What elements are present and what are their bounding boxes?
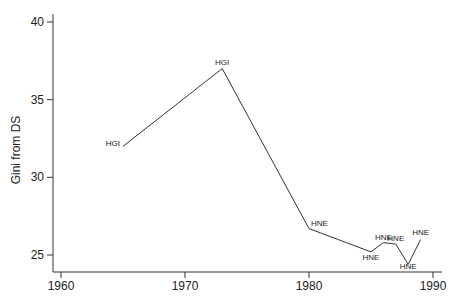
point-label: HNE: [412, 228, 429, 237]
data-series: HGIHGIHNEHNEHNEHNEHNEHNE: [106, 58, 429, 272]
y-tick-label: 30: [31, 170, 45, 184]
chart-canvas: 25303540 1960197019801990 Gini from DS H…: [0, 0, 462, 305]
point-label: HNE: [363, 253, 380, 262]
point-label: HGI: [215, 58, 229, 67]
x-tick-label: 1970: [172, 279, 199, 293]
x-tick-label: 1990: [420, 279, 447, 293]
y-ticks: 25303540: [31, 15, 53, 262]
y-axis-title: Gini from DS: [9, 116, 23, 185]
point-label: HNE: [387, 234, 404, 243]
point-label: HNE: [400, 262, 417, 271]
y-tick-label: 25: [31, 248, 45, 262]
y-tick-label: 40: [31, 15, 45, 29]
point-label: HGI: [106, 139, 120, 148]
line-chart: 25303540 1960197019801990 Gini from DS H…: [0, 0, 462, 305]
y-tick-label: 35: [31, 93, 45, 107]
x-tick-label: 1960: [48, 279, 75, 293]
x-ticks: 1960197019801990: [48, 272, 447, 293]
x-tick-label: 1980: [296, 279, 323, 293]
point-label: HNE: [311, 219, 328, 228]
